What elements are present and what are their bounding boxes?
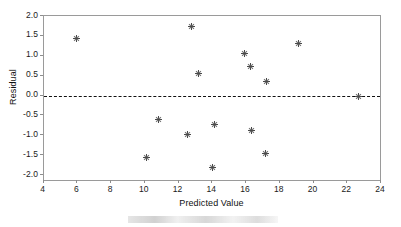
- x-tick-mark: [144, 180, 145, 183]
- marker-stroke: [263, 151, 269, 157]
- data-point: [355, 93, 362, 100]
- data-point: [188, 23, 195, 30]
- marker-stroke: [212, 122, 218, 128]
- marker-stroke: [247, 64, 253, 70]
- x-tick-mark: [76, 180, 77, 183]
- y-tick-label: 2.0: [0, 11, 38, 20]
- x-axis-title: Predicted Value: [42, 198, 381, 208]
- x-tick-label: 24: [368, 184, 392, 194]
- marker-stroke: [264, 78, 270, 84]
- marker-stroke: [264, 78, 270, 84]
- x-tick-label: 14: [199, 184, 223, 194]
- data-point: [155, 116, 162, 123]
- data-point: [73, 35, 80, 42]
- marker-stroke: [212, 122, 218, 128]
- marker-stroke: [210, 165, 216, 171]
- x-tick-label: 6: [64, 184, 88, 194]
- x-tick-label: 4: [31, 184, 55, 194]
- marker-stroke: [74, 35, 80, 41]
- x-tick-mark: [313, 180, 314, 183]
- x-tick-label: 20: [301, 184, 325, 194]
- x-tick-label: 18: [267, 184, 291, 194]
- residual-plot: Residual 2.01.51.00.50.0-0.5-1.0-1.5-2.0…: [0, 0, 401, 227]
- marker-stroke: [185, 132, 191, 138]
- marker-stroke: [74, 35, 80, 41]
- marker-stroke: [196, 71, 202, 77]
- scan-artifact-smudge: [128, 216, 278, 223]
- y-tick-label: -2.0: [0, 170, 38, 179]
- y-tick-label: -0.5: [0, 110, 38, 119]
- data-point: [262, 150, 269, 157]
- x-tick-mark: [279, 180, 280, 183]
- x-tick-mark: [178, 180, 179, 183]
- marker-stroke: [210, 165, 216, 171]
- marker-stroke: [249, 128, 255, 134]
- marker-stroke: [249, 128, 255, 134]
- marker-stroke: [144, 154, 150, 160]
- x-tick-label: 22: [334, 184, 358, 194]
- data-point: [209, 164, 216, 171]
- data-point: [247, 63, 254, 70]
- data-point: [248, 127, 255, 134]
- data-point: [295, 40, 302, 47]
- zero-reference-line: [44, 96, 380, 97]
- marker-stroke: [189, 24, 195, 30]
- data-point: [184, 131, 191, 138]
- x-tick-label: 8: [98, 184, 122, 194]
- y-tick-label: 0.5: [0, 70, 38, 79]
- marker-stroke: [296, 41, 302, 47]
- marker-stroke: [263, 151, 269, 157]
- marker-stroke: [242, 51, 248, 57]
- y-tick-label: 0.0: [0, 90, 38, 99]
- data-point: [211, 121, 218, 128]
- x-tick-mark: [110, 180, 111, 183]
- marker-stroke: [155, 117, 161, 123]
- data-point: [195, 70, 202, 77]
- data-point: [263, 78, 270, 85]
- x-tick-mark: [380, 180, 381, 183]
- plot-area: [43, 15, 381, 181]
- marker-stroke: [296, 41, 302, 47]
- y-tick-label: 1.5: [0, 30, 38, 39]
- x-tick-mark: [346, 180, 347, 183]
- marker-stroke: [242, 51, 248, 57]
- marker-stroke: [185, 132, 191, 138]
- y-tick-label: 1.0: [0, 50, 38, 59]
- x-tick-label: 16: [233, 184, 257, 194]
- y-tick-label: -1.0: [0, 130, 38, 139]
- x-tick-label: 10: [132, 184, 156, 194]
- marker-stroke: [155, 117, 161, 123]
- marker-stroke: [196, 71, 202, 77]
- x-tick-mark: [211, 180, 212, 183]
- marker-stroke: [189, 24, 195, 30]
- marker-stroke: [144, 154, 150, 160]
- x-tick-label: 12: [166, 184, 190, 194]
- x-tick-mark: [245, 180, 246, 183]
- x-tick-mark: [43, 180, 44, 183]
- y-tick-label: -1.5: [0, 150, 38, 159]
- data-point: [143, 154, 150, 161]
- data-point: [241, 50, 248, 57]
- marker-stroke: [247, 64, 253, 70]
